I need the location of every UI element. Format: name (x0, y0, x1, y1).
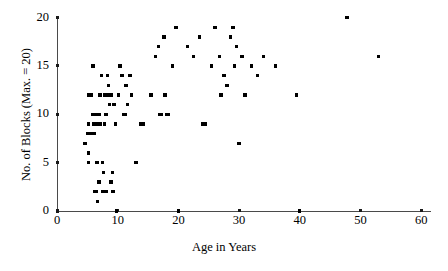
data-point (95, 190, 98, 193)
y-tick-mark (56, 161, 59, 164)
data-point (250, 64, 253, 67)
data-point (154, 55, 157, 58)
y-tick-mark (56, 16, 59, 19)
data-point (105, 190, 108, 193)
data-point (91, 64, 94, 67)
data-point (218, 55, 221, 58)
data-point (229, 35, 232, 38)
data-point (103, 122, 106, 125)
data-point (107, 84, 110, 87)
data-point (87, 161, 90, 164)
x-axis-title: Age in Years (0, 240, 448, 255)
data-point (120, 74, 123, 77)
data-point (95, 161, 98, 164)
data-point (114, 122, 117, 125)
data-point (109, 180, 112, 183)
data-point (295, 93, 298, 96)
scatter-plot-figure: 0102030405060 05101520 Age in Years No. … (0, 0, 448, 271)
data-point (198, 35, 201, 38)
data-point (167, 113, 170, 116)
data-point (111, 171, 114, 174)
data-point (160, 113, 163, 116)
x-tick-label: 10 (103, 214, 133, 227)
data-point (98, 113, 101, 116)
data-point (192, 55, 195, 58)
x-tick-label: 40 (285, 214, 315, 227)
data-point (235, 45, 238, 48)
data-point (97, 180, 100, 183)
data-point (177, 209, 180, 212)
data-point (104, 113, 107, 116)
data-point (128, 74, 131, 77)
x-tick-label: 30 (224, 214, 254, 227)
x-axis-line (57, 211, 431, 212)
data-point (119, 64, 122, 67)
data-point (274, 64, 277, 67)
data-point (222, 74, 225, 77)
data-point (237, 142, 240, 145)
data-point (106, 74, 109, 77)
x-tick-label: 60 (406, 214, 436, 227)
data-point (377, 55, 380, 58)
data-point (87, 122, 90, 125)
data-point (108, 103, 111, 106)
x-tick-mark (420, 209, 423, 212)
data-point (174, 26, 177, 29)
y-tick-mark (56, 113, 59, 116)
data-point (101, 161, 104, 164)
data-point (124, 84, 127, 87)
data-point (130, 93, 133, 96)
data-point (112, 103, 115, 106)
data-point (163, 93, 166, 96)
data-point (87, 151, 90, 154)
data-point (157, 45, 160, 48)
data-point (186, 45, 189, 48)
data-point (213, 26, 216, 29)
data-point (100, 74, 103, 77)
data-point (204, 122, 207, 125)
y-tick-label: 0 (21, 204, 49, 217)
data-point (83, 142, 86, 145)
y-tick-mark (56, 64, 59, 67)
data-point (92, 132, 95, 135)
data-point (123, 113, 126, 116)
x-tick-label: 50 (346, 214, 376, 227)
data-point (243, 93, 246, 96)
data-point (262, 55, 265, 58)
data-point (240, 55, 243, 58)
data-point (134, 161, 137, 164)
data-point (149, 93, 152, 96)
data-point (225, 84, 228, 87)
x-tick-label: 20 (163, 214, 193, 227)
plot-area (57, 17, 429, 211)
data-point (219, 93, 222, 96)
data-point (162, 35, 165, 38)
data-point (171, 64, 174, 67)
data-point (115, 209, 118, 212)
data-point (117, 93, 120, 96)
data-point (345, 16, 348, 19)
data-point (96, 200, 99, 203)
data-point (102, 171, 105, 174)
y-tick-label: 20 (21, 11, 49, 24)
data-point (112, 190, 115, 193)
data-point (298, 209, 301, 212)
y-tick-mark (56, 210, 59, 213)
data-point (141, 122, 144, 125)
data-point (126, 103, 129, 106)
x-tick-mark (359, 209, 362, 212)
data-point (256, 74, 259, 77)
data-point (98, 93, 101, 96)
y-axis-title: No. of Blocks (Max. = 20) (19, 25, 34, 205)
data-point (231, 26, 234, 29)
data-point (110, 93, 113, 96)
data-point (90, 93, 93, 96)
data-point (210, 64, 213, 67)
data-point (233, 64, 236, 67)
x-tick-mark (238, 209, 241, 212)
